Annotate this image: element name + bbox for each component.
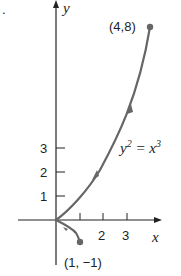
x-axis-label: x — [151, 229, 159, 245]
corner-mark: . — [2, 2, 6, 17]
y-tick-3: 3 — [40, 141, 47, 156]
endpoint-4-8-marker — [147, 24, 153, 30]
direction-arrow-icon — [63, 227, 68, 231]
y-axis-label: y — [61, 0, 70, 16]
plot-canvas: . y x 2 3 1 2 3 (4,8) (1, −1) y2 = x3 — [0, 0, 181, 276]
y-axis-arrow-icon — [53, 0, 59, 8]
y-ticks — [56, 148, 65, 196]
curve-upper-branch — [56, 27, 150, 220]
y-tick-2: 2 — [40, 165, 47, 180]
x-ticks — [80, 213, 127, 220]
equation-label: y2 = x3 — [118, 138, 161, 156]
x-tick-2: 2 — [98, 228, 105, 243]
endpoint-1-neg1-label: (1, −1) — [64, 255, 102, 270]
x-axis: x — [18, 217, 162, 245]
x-tick-3: 3 — [122, 228, 129, 243]
endpoint-4-8-label: (4,8) — [109, 19, 136, 34]
x-axis-arrow-icon — [154, 217, 162, 223]
curve-lower-branch — [56, 220, 80, 242]
endpoint-1-neg1-marker — [77, 239, 83, 245]
y-tick-1: 1 — [40, 189, 47, 204]
